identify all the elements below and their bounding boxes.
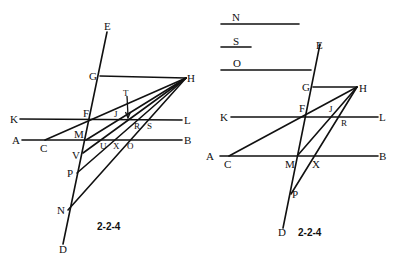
label-S: S: [147, 121, 152, 131]
label-L: L: [379, 111, 386, 123]
label-B: B: [379, 150, 386, 162]
label-K: K: [10, 113, 18, 125]
figure-caption: 2-2-4: [298, 227, 322, 238]
label-G: G: [302, 81, 310, 93]
label-P: P: [292, 188, 298, 200]
label-J: J: [329, 104, 333, 114]
label-J: J: [114, 109, 118, 119]
label-F: F: [83, 107, 89, 119]
right-figure: N S O E G H K F J L R A C M X B P D 2-2-…: [206, 11, 386, 238]
segment-label-N: N: [232, 11, 240, 23]
label-L: L: [184, 114, 191, 126]
diagram-canvas: E G H T K F J L R S A C M B U X O V P N …: [0, 0, 393, 259]
label-V: V: [72, 149, 80, 161]
label-O: O: [127, 141, 134, 151]
label-G: G: [89, 70, 97, 82]
line-T-left: [127, 96, 128, 116]
segment-label-O: O: [233, 57, 241, 69]
figure-caption: 2-2-4: [97, 221, 121, 232]
line-HM-right: [298, 87, 357, 155]
label-U: U: [100, 141, 107, 151]
label-B: B: [184, 134, 191, 146]
line-HP-left: [77, 78, 186, 173]
label-X: X: [312, 158, 320, 170]
label-F: F: [299, 102, 305, 114]
line-ED-left: [63, 32, 107, 244]
label-C: C: [224, 158, 231, 170]
line-KL-left: [20, 119, 182, 120]
label-E: E: [104, 20, 111, 32]
label-A: A: [206, 150, 214, 162]
label-N: N: [57, 204, 65, 216]
label-R: R: [134, 121, 140, 131]
label-M: M: [285, 158, 295, 170]
segment-label-S: S: [233, 35, 239, 47]
label-R: R: [341, 118, 347, 128]
label-C: C: [40, 142, 47, 154]
label-P: P: [67, 167, 73, 179]
label-H: H: [359, 82, 367, 94]
label-X: X: [113, 141, 120, 151]
label-K: K: [220, 111, 228, 123]
line-HV-left: [83, 78, 186, 153]
label-H: H: [187, 72, 195, 84]
label-D: D: [278, 226, 286, 238]
left-figure: E G H T K F J L R S A C M B U X O V P N …: [10, 20, 195, 255]
label-D: D: [59, 243, 67, 255]
label-T: T: [123, 88, 129, 98]
label-A: A: [12, 134, 20, 146]
line-HC-right: [229, 87, 357, 156]
label-E: E: [316, 39, 323, 51]
line-GH-left: [100, 76, 186, 78]
label-M: M: [74, 128, 84, 140]
